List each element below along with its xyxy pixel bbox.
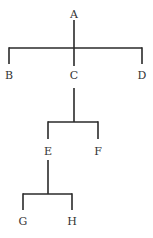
node-B: B (5, 69, 13, 82)
tree-diagram: A B C D E F G H (0, 0, 153, 238)
edge-group-C (48, 88, 98, 139)
node-D: D (138, 69, 147, 82)
node-F: F (94, 145, 102, 158)
edge-group-A (9, 20, 142, 66)
node-E: E (44, 145, 52, 158)
edge-group-E (23, 160, 72, 210)
node-C: C (70, 69, 78, 82)
node-H: H (67, 215, 77, 228)
node-G: G (19, 215, 28, 228)
node-A: A (69, 8, 79, 21)
